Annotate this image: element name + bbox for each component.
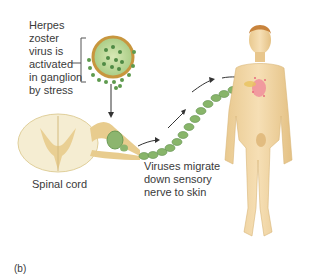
virus-activation-label: Herpes zoster virus is activated in gang… [29, 19, 82, 97]
spinal-cord-illustration [18, 114, 140, 172]
arrow-down-icon [108, 84, 114, 118]
infected-neuron-icon [87, 37, 136, 90]
human-figure-illustration [225, 25, 292, 236]
migration-label: Viruses migrate down sensory nerve to sk… [144, 160, 220, 199]
panel-label: (b) [14, 262, 26, 274]
spinal-cord-label: Spinal cord [32, 178, 87, 191]
